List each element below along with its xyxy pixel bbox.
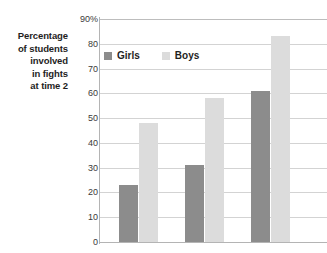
bar-boys-3 <box>271 36 290 242</box>
y-axis-label-line: Percentage <box>4 30 68 43</box>
y-axis-label-line: involved <box>4 55 68 68</box>
y-tick-label: 80 <box>60 39 98 49</box>
y-tick-label: 90% <box>60 14 98 24</box>
legend-entry-boys: Boys <box>162 50 199 61</box>
y-tick-label: 10 <box>60 212 98 222</box>
y-tick-label: 70 <box>60 64 98 74</box>
y-axis-label-line: of students <box>4 43 68 56</box>
y-tick-label: 0 <box>60 237 98 247</box>
y-tick-label: 20 <box>60 187 98 197</box>
y-tick-label: 60 <box>60 88 98 98</box>
legend-entry-girls: Girls <box>104 50 140 61</box>
bar-chart-figure: Percentage of students involved in fight… <box>0 0 327 253</box>
x-axis-line <box>99 242 327 243</box>
girls-swatch-icon <box>104 52 112 60</box>
y-axis-label: Percentage of students involved in fight… <box>4 30 68 93</box>
legend-label-girls: Girls <box>117 50 140 61</box>
y-tick-label: 50 <box>60 113 98 123</box>
y-tick-label: 40 <box>60 138 98 148</box>
bar-boys-1 <box>139 123 158 242</box>
y-axis-tick-labels: 0102030405060708090% <box>60 0 98 253</box>
boys-swatch-icon <box>162 52 170 60</box>
chart-legend: Girls Boys <box>104 50 199 61</box>
bar-girls-1 <box>119 185 138 242</box>
bar-girls-2 <box>185 165 204 242</box>
y-axis-label-line: at time 2 <box>4 80 68 93</box>
bar-girls-3 <box>251 91 270 242</box>
legend-label-boys: Boys <box>175 50 199 61</box>
y-axis-label-line: in fights <box>4 68 68 81</box>
bar-boys-2 <box>205 98 224 242</box>
y-tick-label: 30 <box>60 163 98 173</box>
